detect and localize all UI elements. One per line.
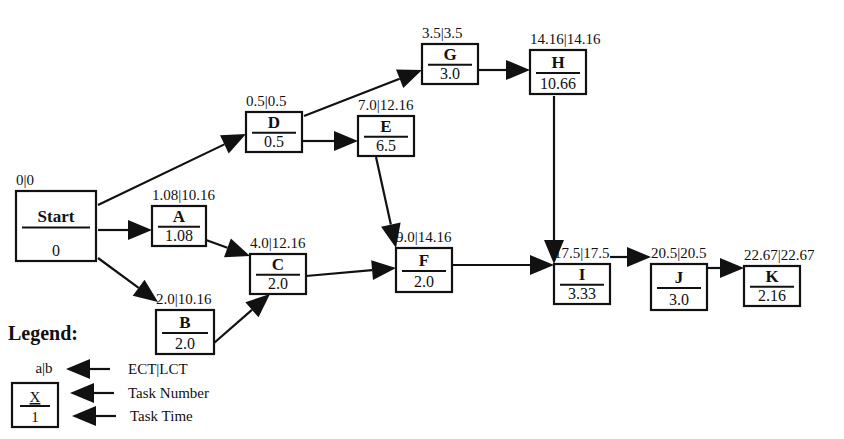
edge-c-f [306, 260, 396, 280]
node-task-time: 2.0 [414, 273, 434, 290]
legend-arrow-ect-lct [66, 359, 110, 379]
legend-arrow-task-time [72, 406, 116, 426]
node-g: 3.5|3.5G3.0 [422, 25, 478, 84]
node-ect-lct: 1.08|10.16 [152, 187, 216, 203]
node-task-time: 10.66 [540, 75, 576, 92]
edge-line [206, 240, 227, 248]
node-ect-lct: 17.5|17.5 [554, 245, 610, 261]
node-task-time: 3.33 [568, 285, 596, 302]
node-ect-lct: 0.5|0.5 [246, 93, 287, 109]
edge-j-k [707, 258, 744, 278]
node-ect-lct: 3.5|3.5 [422, 25, 463, 41]
legend-sample-name: X [30, 389, 41, 405]
node-ect-lct: 9.0|14.16 [396, 229, 452, 245]
edge-a-c [206, 238, 250, 257]
node-e: 7.0|12.16E6.5 [358, 97, 414, 156]
legend-label-task-number: Task Number [128, 385, 209, 401]
arrowhead-icon [133, 280, 158, 302]
legend-label-task-time: Task Time [130, 408, 193, 424]
network-diagram: 0|0Start01.08|10.16A1.082.0|10.16B2.04.0… [0, 0, 844, 439]
node-task-number: K [765, 267, 779, 286]
edge-h-i [544, 96, 564, 264]
node-f: 9.0|14.16F2.0 [396, 229, 452, 292]
node-task-time: 3.0 [440, 65, 460, 82]
node-task-time: 2.0 [175, 335, 195, 352]
arrowhead-icon [128, 220, 152, 240]
arrowhead-icon [334, 131, 358, 151]
edge-b-c [214, 294, 270, 343]
legend-label-ect-lct: ECT|LCT [128, 361, 188, 377]
node-b: 2.0|10.16B2.0 [156, 291, 214, 354]
arrowhead-icon [224, 238, 250, 257]
edge-line [214, 310, 252, 343]
legend-sample-ect-lct: a|b [35, 360, 52, 376]
legend-sample-time: 1 [31, 409, 39, 425]
node-k: 22.67|22.67K2.16 [744, 247, 815, 306]
node-d: 0.5|0.5D0.5 [246, 93, 302, 152]
arrowhead-icon [506, 60, 530, 80]
arrowhead-icon [396, 69, 422, 88]
node-task-time: 3.0 [669, 291, 689, 308]
node-task-number: A [173, 207, 186, 226]
arrowhead-icon [371, 260, 396, 280]
node-ect-lct: 22.67|22.67 [744, 247, 815, 263]
edge-line [98, 258, 139, 288]
node-task-number: C [272, 255, 284, 274]
arrowhead-icon [530, 255, 554, 275]
node-task-number: I [579, 265, 586, 284]
node-task-number: F [419, 251, 429, 270]
node-task-number: E [380, 117, 391, 136]
node-task-number: B [179, 313, 190, 332]
node-ect-lct: 2.0|10.16 [156, 291, 212, 307]
node-task-number: D [268, 113, 280, 132]
edge-f-i [452, 255, 554, 275]
node-h: 14.16|14.16H10.66 [530, 31, 601, 94]
node-task-time: 6.5 [376, 137, 396, 154]
node-task-number: H [551, 53, 564, 72]
legend-title: Legend: [8, 322, 78, 345]
edge-i-j [610, 247, 651, 267]
node-a: 1.08|10.16A1.08 [152, 187, 216, 246]
legend-arrow-task-number [70, 383, 114, 403]
node-ect-lct: 14.16|14.16 [530, 31, 601, 47]
node-i: 17.5|17.5I3.33 [554, 245, 610, 304]
node-start: 0|0Start0 [16, 172, 96, 261]
edge-line [306, 270, 372, 276]
node-task-number: G [443, 45, 456, 64]
node-ect-lct: 20.5|20.5 [651, 245, 707, 261]
node-task-time: 0 [52, 242, 60, 259]
edge-start-a [98, 220, 152, 240]
edge-d-e [302, 131, 358, 151]
node-j: 20.5|20.5J3.0 [651, 245, 707, 310]
node-c: 4.0|12.16C2.0 [250, 235, 306, 294]
node-task-time: 2.16 [758, 287, 786, 304]
node-ect-lct: 4.0|12.16 [250, 235, 306, 251]
node-task-time: 1.08 [165, 227, 193, 244]
edge-line [376, 157, 391, 225]
arrowhead-icon [245, 294, 270, 317]
node-task-time: 0.5 [264, 133, 284, 150]
node-task-number: Start [38, 207, 75, 226]
node-ect-lct: 7.0|12.16 [358, 97, 414, 113]
edge-g-h [478, 60, 530, 80]
arrowhead-icon [720, 258, 744, 278]
edge-start-b [98, 258, 158, 302]
node-task-time: 2.0 [268, 275, 288, 292]
arrowhead-icon [627, 247, 651, 267]
node-ect-lct: 0|0 [16, 172, 34, 188]
node-task-number: J [675, 268, 684, 287]
